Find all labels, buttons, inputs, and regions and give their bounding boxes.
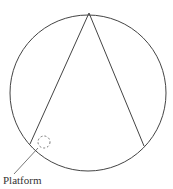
diagram-canvas <box>0 0 173 189</box>
label-leader-line <box>14 148 38 174</box>
outer-circle <box>10 15 166 171</box>
platform-marker <box>38 136 50 148</box>
platform-label: Platform <box>3 174 42 186</box>
right-chord <box>89 13 144 146</box>
